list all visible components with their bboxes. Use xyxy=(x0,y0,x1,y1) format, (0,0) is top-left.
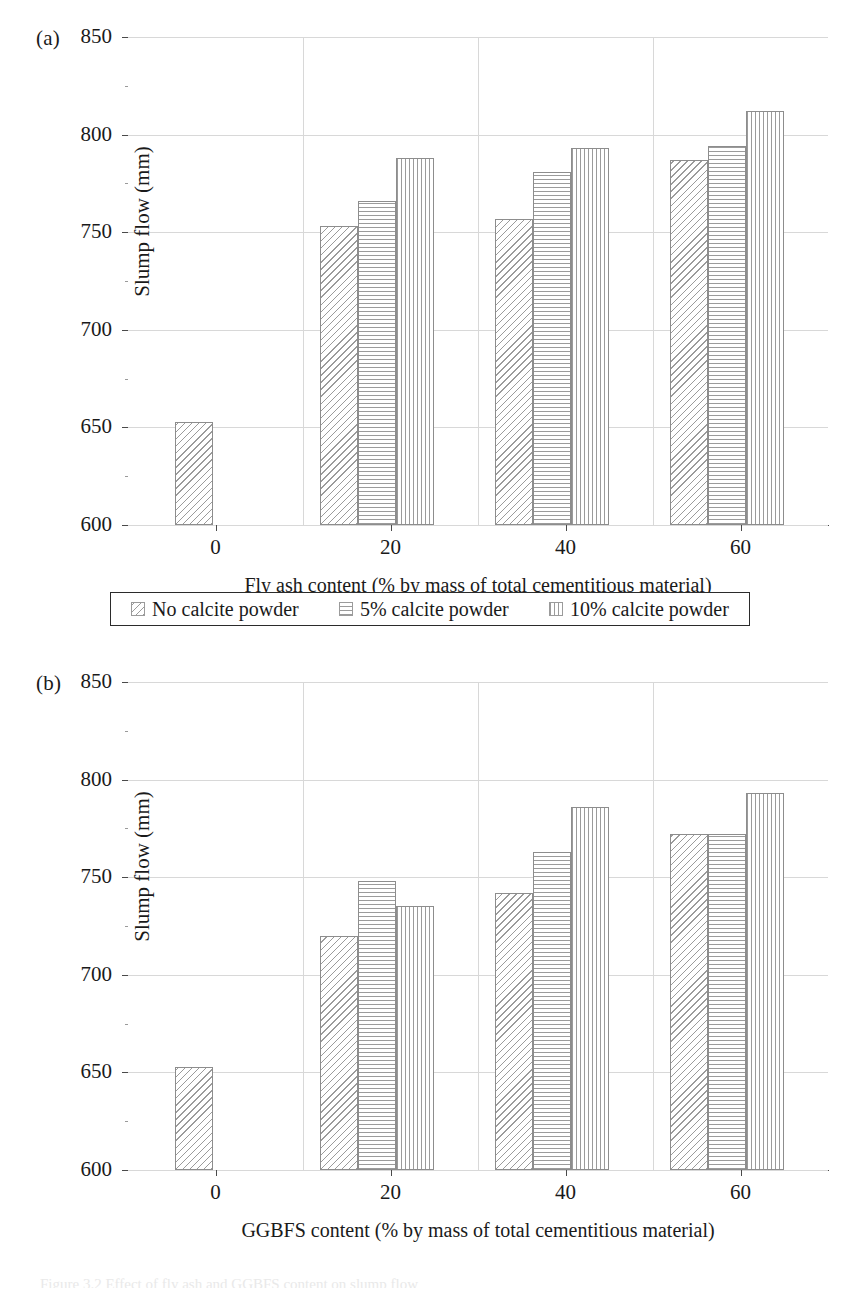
x-tick-label: 0 xyxy=(181,1182,251,1203)
bar xyxy=(533,172,571,525)
legend-item: 5% calcite powder xyxy=(339,599,509,619)
x-tick-mark xyxy=(216,1170,217,1176)
y-tick-mark xyxy=(122,135,128,136)
x-tick-mark xyxy=(566,525,567,531)
chart-panel-b: (b) 6006507007508008500204060 Slump flow… xyxy=(0,645,859,1285)
bar xyxy=(175,422,213,525)
gridline-vertical xyxy=(303,37,304,525)
bar xyxy=(320,226,358,525)
bar xyxy=(396,906,434,1170)
bar xyxy=(571,148,609,525)
y-tick-minor xyxy=(125,281,128,282)
y-tick-mark xyxy=(122,525,128,526)
y-tick-minor xyxy=(125,828,128,829)
x-tick-label: 40 xyxy=(531,537,601,558)
gridline-horizontal xyxy=(128,1170,828,1171)
x-tick-mark xyxy=(391,1170,392,1176)
bar xyxy=(320,936,358,1170)
y-tick-label: 800 xyxy=(42,124,112,145)
x-tick-label: 60 xyxy=(706,1182,776,1203)
x-tick-mark xyxy=(391,525,392,531)
y-tick-minor xyxy=(125,476,128,477)
x-tick-mark xyxy=(741,525,742,531)
y-tick-label: 750 xyxy=(42,221,112,242)
gridline-vertical xyxy=(303,682,304,1170)
bar xyxy=(358,201,396,525)
gridline-vertical xyxy=(478,37,479,525)
plot-canvas-a: 6006507007508008500204060 xyxy=(128,37,828,525)
bar xyxy=(708,146,746,525)
chart-panel-a: (a) 6006507007508008500204060 Slump flow… xyxy=(0,0,859,645)
y-tick-label: 850 xyxy=(42,26,112,47)
legend-swatch-10pct-icon xyxy=(549,602,563,616)
legend-label: 10% calcite powder xyxy=(570,599,729,619)
bar xyxy=(358,881,396,1170)
y-tick-mark xyxy=(122,682,128,683)
y-tick-mark xyxy=(122,975,128,976)
bar xyxy=(670,834,708,1170)
y-tick-label: 600 xyxy=(42,1159,112,1180)
x-tick-mark xyxy=(741,1170,742,1176)
y-tick-mark xyxy=(122,330,128,331)
x-axis-label-b: GGBFS content (% by mass of total cement… xyxy=(128,1219,828,1242)
x-tick-label: 20 xyxy=(356,537,426,558)
figure-caption-clipped: Figure 3.2 Effect of fly ash and GGBFS c… xyxy=(40,1276,820,1288)
y-tick-mark xyxy=(122,877,128,878)
gridline-vertical xyxy=(653,37,654,525)
y-tick-label: 600 xyxy=(42,514,112,535)
plot-area-a: 6006507007508008500204060 Slump flow (mm… xyxy=(128,37,828,525)
y-tick-label: 700 xyxy=(42,319,112,340)
gridline-vertical xyxy=(478,682,479,1170)
legend-label: No calcite powder xyxy=(152,599,299,619)
y-tick-label: 650 xyxy=(42,416,112,437)
legend-swatch-5pct-icon xyxy=(339,602,353,616)
y-tick-label: 800 xyxy=(42,769,112,790)
x-tick-mark xyxy=(216,525,217,531)
legend-item: No calcite powder xyxy=(131,599,299,619)
y-tick-mark xyxy=(122,1170,128,1171)
y-tick-minor xyxy=(125,1121,128,1122)
bar xyxy=(670,160,708,525)
bar xyxy=(533,852,571,1170)
y-tick-label: 850 xyxy=(42,671,112,692)
y-axis-label-b: Slump flow (mm) xyxy=(130,757,155,977)
bar xyxy=(175,1067,213,1170)
y-tick-mark xyxy=(122,232,128,233)
x-tick-label: 20 xyxy=(356,1182,426,1203)
y-tick-mark xyxy=(122,37,128,38)
y-tick-minor xyxy=(125,86,128,87)
bar xyxy=(746,111,784,525)
y-tick-label: 750 xyxy=(42,866,112,887)
y-tick-mark xyxy=(122,780,128,781)
x-tick-label: 60 xyxy=(706,537,776,558)
legend-swatch-no-calcite-icon xyxy=(131,602,145,616)
y-tick-minor xyxy=(125,183,128,184)
y-tick-minor xyxy=(125,1024,128,1025)
legend-item: 10% calcite powder xyxy=(549,599,729,619)
bar xyxy=(396,158,434,525)
bar xyxy=(708,834,746,1170)
bar xyxy=(746,793,784,1170)
gridline-vertical xyxy=(653,682,654,1170)
y-axis-label-a: Slump flow (mm) xyxy=(130,112,155,332)
plot-area-b: 6006507007508008500204060 Slump flow (mm… xyxy=(128,682,828,1170)
bar xyxy=(495,219,533,525)
x-tick-label: 40 xyxy=(531,1182,601,1203)
plot-canvas-b: 6006507007508008500204060 xyxy=(128,682,828,1170)
y-tick-minor xyxy=(125,379,128,380)
bar xyxy=(495,893,533,1170)
bar xyxy=(571,807,609,1170)
gridline-horizontal xyxy=(128,525,828,526)
y-tick-label: 700 xyxy=(42,964,112,985)
y-tick-minor xyxy=(125,926,128,927)
legend-a: No calcite powder5% calcite powder10% ca… xyxy=(110,592,750,626)
x-tick-label: 0 xyxy=(181,537,251,558)
x-tick-mark xyxy=(566,1170,567,1176)
y-tick-label: 650 xyxy=(42,1061,112,1082)
y-tick-mark xyxy=(122,427,128,428)
y-tick-minor xyxy=(125,731,128,732)
legend-label: 5% calcite powder xyxy=(360,599,509,619)
y-tick-mark xyxy=(122,1072,128,1073)
